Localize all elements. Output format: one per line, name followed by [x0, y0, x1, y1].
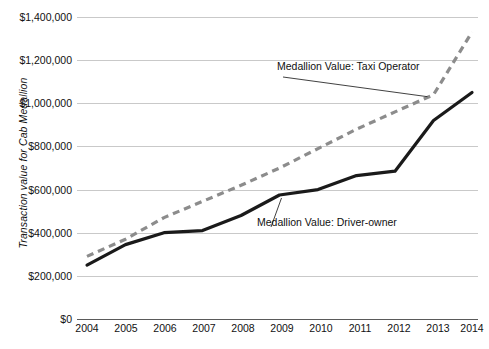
x-tick-label: 2009: [270, 322, 293, 334]
y-tick-label: $800,000: [0, 140, 72, 152]
y-tick-label: $400,000: [0, 227, 72, 239]
line-driver-owner: [87, 93, 472, 266]
x-tick-label: 2010: [309, 322, 332, 334]
x-tick-label: 2013: [426, 322, 449, 334]
y-tick-label: $200,000: [0, 270, 72, 282]
y-tick-label: $1,200,000: [0, 54, 72, 66]
x-tick-label: 2005: [114, 322, 137, 334]
x-tick-label: 2012: [387, 322, 410, 334]
x-tick-label: 2007: [192, 322, 215, 334]
y-tick-label: $1,400,000: [0, 11, 72, 23]
annotation-taxi-operator: Medallion Value: Taxi Operator: [277, 60, 420, 72]
x-tick-label: 2011: [349, 322, 372, 334]
leader-line-taxi-operator: [283, 77, 428, 97]
x-tick-label: 2014: [460, 322, 483, 334]
x-tick-label: 2004: [75, 322, 98, 334]
x-tick-label: 2006: [153, 322, 176, 334]
x-tick-label: 2008: [231, 322, 254, 334]
chart-container: Transaction value for Cab Medallion $1,4…: [0, 0, 489, 349]
annotation-driver-owner: Medallion Value: Driver-owner: [257, 216, 397, 228]
y-tick-label: $0: [0, 313, 72, 325]
y-tick-label: $1,000,000: [0, 97, 72, 109]
y-tick-label: $600,000: [0, 184, 72, 196]
